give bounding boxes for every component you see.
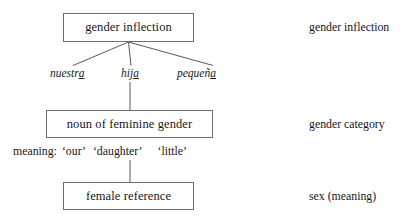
tier-label-sex-meaning: sex (meaning)	[309, 191, 376, 203]
node-gender-inflection-label: gender inflection	[85, 21, 172, 34]
word-hija-suffix: a	[133, 67, 139, 79]
gloss-little: ‘little’	[158, 144, 187, 158]
word-hija: hija	[121, 68, 139, 80]
node-noun-of-feminine-gender[interactable]: noun of feminine gender	[46, 110, 213, 138]
gloss-daughter: ‘daughter’	[93, 144, 143, 158]
word-nuestra-stem: nuestr	[50, 67, 79, 79]
meaning-gloss-row: meaning:‘our’‘daughter’‘little’	[13, 146, 194, 158]
word-nuestra: nuestra	[50, 68, 85, 80]
edge-top-to-pequena	[129, 42, 214, 66]
word-pequena-stem: pequeñ	[177, 67, 210, 79]
edge-top-to-hija	[129, 42, 132, 66]
word-hija-stem: hij	[121, 67, 133, 79]
meaning-label: meaning:	[13, 144, 57, 158]
node-female-reference[interactable]: female reference	[63, 182, 194, 210]
gloss-our: ‘our’	[62, 144, 86, 158]
tier-label-gender-inflection: gender inflection	[309, 22, 389, 34]
word-pequena: pequeña	[177, 68, 216, 80]
tier-label-gender-category: gender category	[309, 119, 385, 131]
node-noun-of-feminine-gender-label: noun of feminine gender	[67, 118, 193, 131]
diagram-canvas: gender inflection noun of feminine gende…	[0, 0, 418, 223]
word-nuestra-suffix: a	[79, 67, 85, 79]
node-female-reference-label: female reference	[86, 190, 171, 203]
node-gender-inflection[interactable]: gender inflection	[63, 13, 194, 42]
edge-top-to-nuestra	[73, 42, 129, 66]
word-pequena-suffix: a	[210, 67, 216, 79]
